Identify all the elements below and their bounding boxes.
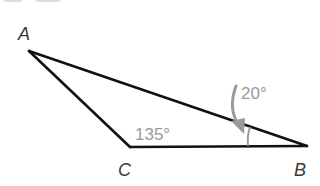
vertex-label-b: B bbox=[294, 160, 306, 180]
triangle-diagram: A C B 135° 20° bbox=[0, 0, 320, 186]
side-ac bbox=[29, 51, 130, 147]
curved-arrow-icon bbox=[232, 86, 238, 124]
angle-label-c: 135° bbox=[135, 125, 170, 144]
angle-label-b: 20° bbox=[241, 84, 267, 103]
side-cb bbox=[130, 146, 307, 147]
vertex-label-c: C bbox=[118, 160, 132, 180]
vertex-label-a: A bbox=[17, 24, 30, 44]
angle-arc-b bbox=[248, 127, 250, 146]
